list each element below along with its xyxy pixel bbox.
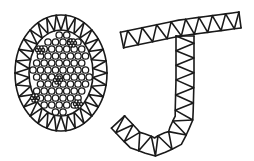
letters-artwork (0, 0, 254, 161)
illustration-canvas (0, 0, 254, 161)
letter-j (111, 12, 241, 156)
letter-o (15, 15, 107, 131)
